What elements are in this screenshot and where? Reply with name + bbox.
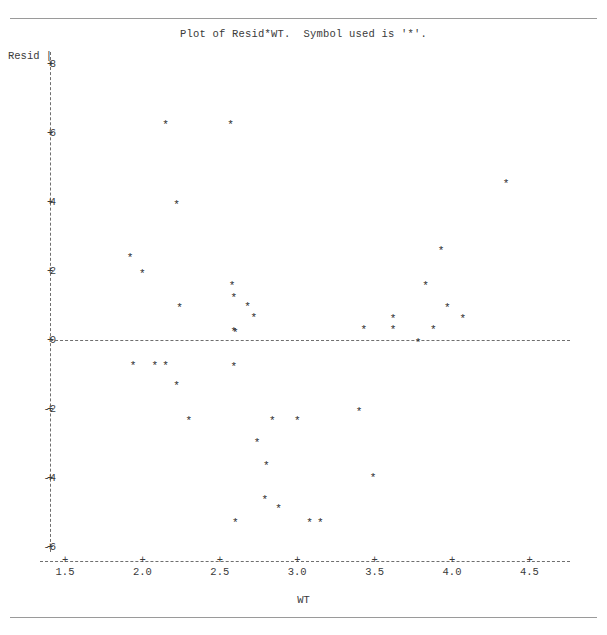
x-axis-tick-mark: + <box>372 555 378 566</box>
data-point: * <box>370 472 377 483</box>
x-axis-title: WT <box>0 594 607 606</box>
x-axis-tick-label: 4.5 <box>520 566 539 578</box>
data-point: * <box>176 303 183 314</box>
data-point: * <box>230 362 237 373</box>
data-point: * <box>130 361 137 372</box>
data-point: * <box>430 325 437 336</box>
data-point: * <box>390 325 397 336</box>
data-point: * <box>127 253 134 264</box>
data-point: * <box>162 361 169 372</box>
page-title: Plot of Resid*WT. Symbol used is '*'. <box>0 28 607 40</box>
data-point: * <box>261 495 268 506</box>
data-point: * <box>230 293 237 304</box>
data-point: * <box>186 415 193 426</box>
data-point: * <box>503 179 510 190</box>
data-point: * <box>422 280 429 291</box>
y-axis-tick-mark: + <box>47 266 53 277</box>
x-axis-tick-label: 2.5 <box>210 566 229 578</box>
data-point: * <box>317 517 324 528</box>
y-axis-tick-mark: + <box>47 128 53 139</box>
y-axis-tick-mark: + <box>47 197 53 208</box>
data-point: * <box>269 415 276 426</box>
data-point: * <box>232 327 239 338</box>
x-axis-tick-label: 1.5 <box>56 566 75 578</box>
data-point: * <box>244 301 251 312</box>
scatter-points-layer: *************************************** <box>0 0 607 635</box>
data-point: * <box>294 415 301 426</box>
x-axis-tick-mark: + <box>449 555 455 566</box>
y-axis-tick-mark: + <box>47 404 53 415</box>
data-point: * <box>254 438 261 449</box>
y-axis-tick-mark: + <box>47 473 53 484</box>
top-divider-rule <box>10 18 597 19</box>
x-axis-tick-mark: + <box>526 555 532 566</box>
data-point: * <box>162 120 169 131</box>
x-axis-tick-mark: + <box>217 555 223 566</box>
x-axis-tick-mark: + <box>139 555 145 566</box>
data-point: * <box>263 460 270 471</box>
data-point: * <box>232 517 239 528</box>
data-point: * <box>360 325 367 336</box>
data-point: * <box>390 313 397 324</box>
data-point: * <box>173 381 180 392</box>
plot-page: Plot of Resid*WT. Symbol used is '*'. Re… <box>0 0 607 635</box>
y-axis-tick-mark: + <box>47 59 53 70</box>
x-axis-tick-mark: + <box>294 555 300 566</box>
x-axis-line <box>40 561 570 562</box>
x-axis-tick-label: 4.0 <box>443 566 462 578</box>
x-axis-tick-label: 3.0 <box>288 566 307 578</box>
data-point: * <box>173 199 180 210</box>
x-axis-tick-label: 2.0 <box>133 566 152 578</box>
data-point: * <box>306 517 313 528</box>
data-point: * <box>230 326 237 337</box>
data-point: * <box>139 268 146 279</box>
data-point: * <box>444 303 451 314</box>
y-axis-tick-mark: + <box>47 542 53 553</box>
x-axis-tick-mark: + <box>62 555 68 566</box>
data-point: * <box>275 503 282 514</box>
zero-reference-line <box>50 340 570 341</box>
data-point: * <box>460 313 467 324</box>
data-point: * <box>229 280 236 291</box>
bottom-divider-rule <box>10 617 597 618</box>
data-point: * <box>438 246 445 257</box>
data-point: * <box>251 312 258 323</box>
x-axis-tick-label: 3.5 <box>365 566 384 578</box>
data-point: * <box>227 120 234 131</box>
data-point: * <box>356 407 363 418</box>
data-point: * <box>151 361 158 372</box>
